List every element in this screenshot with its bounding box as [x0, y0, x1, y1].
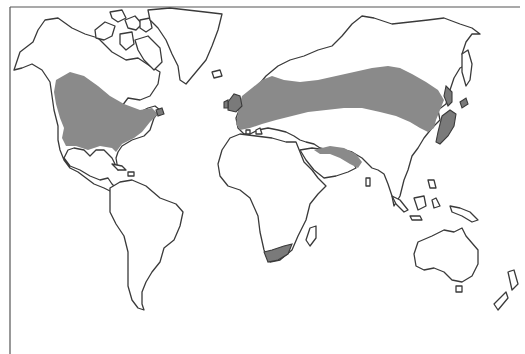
ireland [224, 100, 228, 108]
world-map [0, 0, 525, 354]
arctic-island [120, 32, 134, 50]
iceland [212, 70, 222, 78]
arctic-island [110, 10, 126, 22]
arctic-island [95, 22, 115, 40]
sulawesi [432, 198, 440, 208]
borneo [414, 196, 426, 210]
mediterranean-island [246, 130, 250, 134]
caribbean-island [112, 164, 126, 170]
new-guinea [450, 206, 478, 222]
tasmania [456, 286, 462, 292]
madagascar [306, 226, 316, 246]
new-zealand-north [508, 270, 518, 290]
new-zealand-south [494, 292, 508, 310]
kuril-sakhalin [460, 98, 468, 108]
caribbean-island [128, 172, 134, 176]
sri-lanka [366, 178, 370, 186]
south-america [110, 180, 183, 310]
shaded-region-nova-scotia [156, 108, 164, 116]
australia [414, 228, 478, 282]
java [410, 216, 422, 220]
philippines [428, 180, 436, 188]
kamchatka [462, 50, 472, 86]
